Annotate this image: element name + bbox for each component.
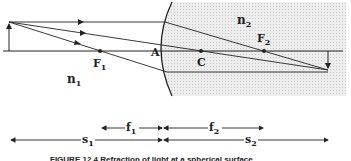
distance-f1: f1	[102, 121, 162, 136]
label-c: C	[197, 56, 206, 69]
label-f1: F1	[93, 57, 106, 72]
focal-point-f2	[262, 49, 266, 53]
ray-arrow-icon	[78, 19, 84, 25]
svg-text:s2: s2	[245, 133, 257, 148]
focal-point-f1	[98, 49, 102, 53]
distance-s2: s2	[164, 133, 328, 148]
center-of-curvature-c	[199, 49, 203, 53]
refraction-diagram: A C F1 F2 n1 n2 f1 f2 s1 s2 FIGURE 12.4 …	[0, 0, 351, 161]
svg-text:s1: s1	[82, 133, 94, 148]
label-a: A	[150, 46, 160, 59]
label-n1: n1	[67, 72, 81, 88]
svg-text:f2: f2	[209, 121, 219, 136]
ray-through-f1	[9, 22, 167, 72]
svg-text:f1: f1	[126, 121, 136, 136]
distance-s1: s1	[11, 133, 162, 148]
figure-caption: FIGURE 12.4 Refraction of light at a sph…	[50, 155, 253, 161]
ray-arrow-icon	[80, 30, 86, 36]
